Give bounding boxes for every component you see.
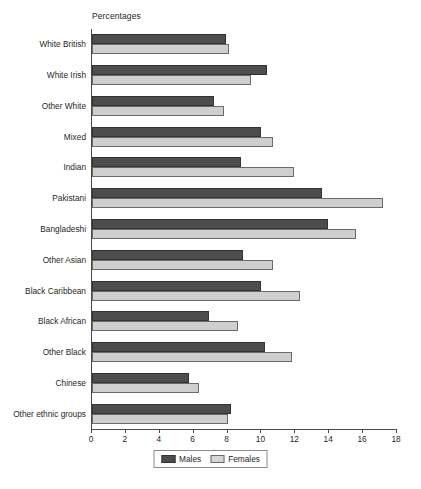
bar-females[interactable] [92,106,224,116]
bar-males[interactable] [92,157,241,167]
bar-group: Black African [92,306,396,337]
x-axis-tick-label: 14 [324,434,333,444]
legend-swatch-icon [210,455,224,463]
chart-axis-title: Percentages [92,11,141,21]
bar-males[interactable] [92,65,267,75]
plot-area: White BritishWhite IrishOther WhiteMixed… [91,29,396,429]
bar-females[interactable] [92,198,383,208]
x-axis-tick [396,429,397,433]
category-label: Bangladeshi [40,224,86,234]
bar-males[interactable] [92,404,231,414]
bar-chart: Percentages White BritishWhite IrishOthe… [0,0,421,489]
bar-females[interactable] [92,352,292,362]
bar-females[interactable] [92,383,199,393]
bar-group: Other Black [92,337,396,368]
bar-males[interactable] [92,219,328,229]
category-label: Black Caribbean [25,286,86,296]
x-axis-tick [362,429,363,433]
x-axis-tick-label: 12 [290,434,299,444]
category-label: Mixed [64,132,86,142]
bar-males[interactable] [92,342,265,352]
chart-legend: Males Females [153,450,268,468]
x-axis-tick-label: 6 [190,434,195,444]
bar-group: White Irish [92,60,396,91]
legend-item-females[interactable]: Females [210,454,260,464]
x-axis-tick [328,429,329,433]
bar-males[interactable] [92,311,209,321]
bar-females[interactable] [92,75,251,85]
bar-group: Indian [92,152,396,183]
bar-group: Bangladeshi [92,214,396,245]
bar-females[interactable] [92,44,229,54]
bar-males[interactable] [92,96,214,106]
bar-group: Other White [92,91,396,122]
bar-males[interactable] [92,127,261,137]
x-axis-tick [159,429,160,433]
legend-swatch-icon [161,455,175,463]
bar-group: Pakistani [92,183,396,214]
bar-males[interactable] [92,281,261,291]
category-label: Chinese [56,378,86,388]
category-label: Indian [63,162,86,172]
legend-item-males[interactable]: Males [161,454,201,464]
x-axis-tick [294,429,295,433]
bar-group: Mixed [92,121,396,152]
category-label: Other Black [43,347,86,357]
bar-males[interactable] [92,34,226,44]
x-axis-tick-label: 16 [357,434,366,444]
x-axis-tick-label: 18 [391,434,400,444]
bar-group: Black Caribbean [92,275,396,306]
bar-males[interactable] [92,373,189,383]
category-label: White British [39,39,86,49]
x-axis-tick [91,429,92,433]
bar-females[interactable] [92,137,273,147]
category-label: Pakistani [52,193,86,203]
category-label: Other Asian [43,255,86,265]
bar-females[interactable] [92,321,238,331]
bar-group: Chinese [92,367,396,398]
x-axis-tick-label: 8 [224,434,229,444]
bar-females[interactable] [92,414,228,424]
bar-group: Other ethnic groups [92,398,396,429]
bar-males[interactable] [92,250,243,260]
x-axis-tick-label: 0 [89,434,94,444]
category-label: White Irish [47,70,86,80]
bar-group: Other Asian [92,244,396,275]
legend-label: Males [179,454,201,464]
category-label: Other ethnic groups [13,409,86,419]
bar-females[interactable] [92,291,300,301]
legend-label: Females [228,454,260,464]
x-axis-tick-label: 4 [156,434,161,444]
x-axis-line [91,429,396,430]
bar-females[interactable] [92,167,294,177]
category-label: Other White [42,101,86,111]
category-label: Black African [38,316,86,326]
x-axis-tick [227,429,228,433]
x-axis-tick [260,429,261,433]
bar-males[interactable] [92,188,322,198]
x-axis-tick [193,429,194,433]
x-axis-tick-label: 10 [256,434,265,444]
x-axis-tick-label: 2 [123,434,128,444]
bar-females[interactable] [92,260,273,270]
bar-females[interactable] [92,229,356,239]
x-axis-tick [125,429,126,433]
bar-group: White British [92,29,396,60]
